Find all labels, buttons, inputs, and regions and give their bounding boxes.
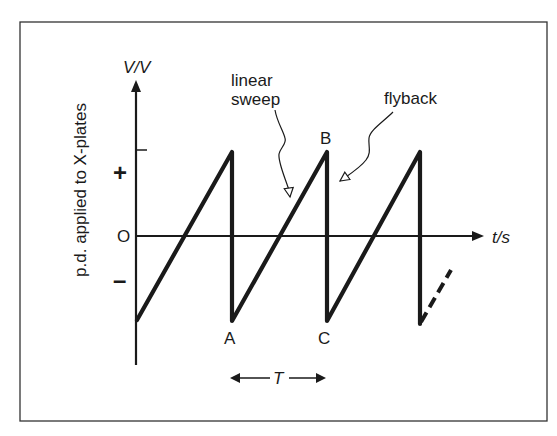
origin-label: O: [117, 227, 130, 246]
linear-sweep-pointer-arrow: [275, 110, 290, 197]
sawtooth-waveform: [137, 152, 420, 324]
y-axis-arrow-icon: [131, 80, 141, 92]
y-axis-label: V/V: [123, 58, 152, 77]
point-label-c: C: [318, 329, 330, 348]
linear-sweep-label-line1: linear: [231, 71, 273, 90]
point-label-b: B: [320, 129, 331, 148]
flyback-label: flyback: [384, 89, 437, 108]
flyback-pointer-arrow: [340, 112, 393, 181]
waveform-continuation-dashed: [421, 270, 451, 322]
x-axis-arrow-icon: [472, 231, 484, 241]
period-label: T: [273, 369, 285, 388]
minus-label: –: [113, 266, 126, 293]
sawtooth-diagram: V/V t/s p.d. applied to X-plates O + – l…: [0, 0, 557, 436]
linear-sweep-label-line2: sweep: [231, 90, 280, 109]
figure-frame: [20, 22, 547, 421]
plus-label: +: [113, 159, 127, 186]
period-left-arrow-icon: [230, 373, 240, 383]
y-axis: [131, 80, 147, 365]
y-side-label: p.d. applied to X-plates: [71, 103, 90, 277]
period-right-arrow-icon: [316, 373, 326, 383]
x-axis-label: t/s: [492, 228, 510, 247]
point-label-a: A: [224, 329, 236, 348]
